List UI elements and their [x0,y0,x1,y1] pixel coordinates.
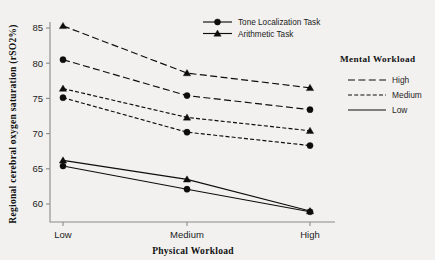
data-point-marker [307,209,313,215]
data-point-marker [60,163,66,169]
data-point-marker [60,95,66,101]
series-polyline [63,60,310,110]
x-axis-category-label: High [300,229,320,240]
legend-task-label: Arithmetic Task [238,30,294,39]
x-axis-category-label: Low [54,229,72,240]
series-medium-arithmetic [59,85,313,133]
legend-task: Tone Localization TaskArithmetic Task [203,18,321,39]
y-axis-tick-label: 85 [32,22,43,33]
data-point-marker [184,186,190,192]
series-high-tone [60,57,313,113]
y-axis-tick-label: 70 [32,128,43,139]
data-point-marker [59,85,66,91]
chart-series-group [59,22,313,214]
data-point-marker [184,129,190,135]
legend-workload-label: High [392,75,410,85]
series-polyline [63,98,310,146]
legend-workload-title: Mental Workload [340,54,416,64]
data-point-marker [307,107,313,113]
axis-frame [50,22,335,222]
data-point-marker [59,22,66,28]
series-medium-tone [60,95,313,149]
data-point-marker [60,57,66,63]
y-axis-tick-label: 80 [32,58,43,69]
legend-workload-label: Low [392,105,408,115]
y-axis-tick-label: 65 [32,163,43,174]
line-chart-canvas: 606570758085LowMediumHigh Tone Localizat… [0,0,435,260]
data-point-marker [184,92,190,98]
series-polyline [63,160,310,211]
legend-mental-workload: Mental WorkloadHighMediumLow [340,54,422,115]
x-axis-category-label: Medium [170,229,204,240]
circle-marker-icon [214,19,220,25]
data-point-marker [307,142,313,148]
chart-figure: 606570758085LowMediumHigh Tone Localizat… [0,0,435,260]
y-axis-title: Regional cerebral oxygen saturation (rSO… [8,24,19,224]
legend-task-label: Tone Localization Task [238,18,321,27]
y-axis-tick-label: 60 [32,198,43,209]
legend-workload-label: Medium [392,90,422,100]
x-axis-title: Physical Workload [152,246,234,256]
data-point-marker [59,157,66,163]
y-axis-tick-label: 75 [32,93,43,104]
series-low-tone [60,163,313,215]
